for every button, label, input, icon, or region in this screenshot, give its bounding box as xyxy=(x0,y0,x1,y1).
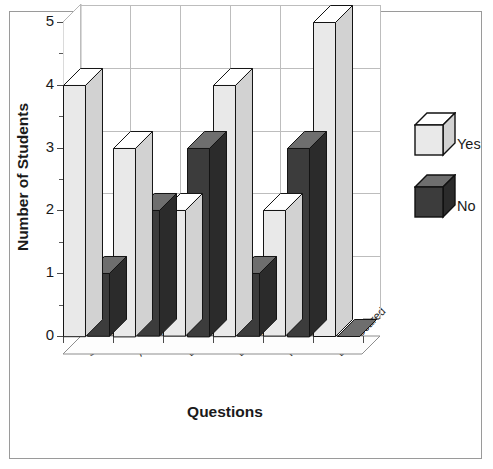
legend-item-yes[interactable]: Yes xyxy=(412,112,484,160)
gridline-vertical xyxy=(380,5,381,319)
legend-item-no[interactable]: No xyxy=(412,174,484,222)
y-tick-label: 3 xyxy=(46,138,54,155)
bar-scared-yes[interactable] xyxy=(63,68,85,336)
plot-floor xyxy=(63,336,381,356)
bar-3d-shape xyxy=(63,68,104,338)
y-tick-label: 4 xyxy=(46,75,54,92)
y-tick-label: 2 xyxy=(46,200,54,217)
y-tick-label: 1 xyxy=(46,263,54,280)
legend-label-no: No xyxy=(457,198,476,214)
y-tick-mark xyxy=(57,22,63,23)
plot-area: 012345 xyxy=(63,22,363,336)
y-tick-label: 0 xyxy=(46,326,54,343)
light-gray-cube-swatch xyxy=(414,112,456,158)
x-tick-mark xyxy=(363,336,364,343)
y-tick-minor xyxy=(59,53,63,54)
dark-gray-cube-swatch xyxy=(414,174,456,220)
y-axis-title: Number of Students xyxy=(14,82,32,272)
x-axis-title: Questions xyxy=(95,403,355,421)
legend-label-yes: Yes xyxy=(457,136,481,152)
chart-container: Number of Students Questions 012345 Scar… xyxy=(0,0,493,469)
y-tick-label: 5 xyxy=(46,12,54,29)
chart-legend: Yes No xyxy=(412,112,484,228)
